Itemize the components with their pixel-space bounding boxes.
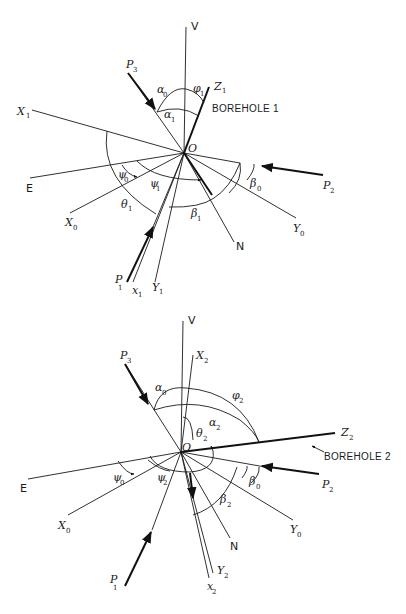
p3-arrow [125, 364, 148, 404]
label-x0: X 0 [64, 216, 77, 232]
svg-text:2: 2 [330, 187, 334, 195]
label-x2-lower: x 2 [207, 580, 216, 596]
label-p2: P 2 [321, 478, 333, 494]
svg-text:0: 0 [256, 483, 260, 491]
label-v: V [191, 20, 199, 33]
label-y0: Y 0 [293, 222, 304, 238]
svg-text:θ: θ [121, 198, 128, 211]
axis-n-line [184, 153, 234, 242]
svg-text:2: 2 [163, 479, 167, 487]
label-beta1: β 1 [190, 207, 201, 223]
svg-text:0: 0 [300, 230, 304, 238]
label-p3: P 3 [125, 58, 137, 74]
svg-text:1: 1 [222, 87, 226, 95]
label-origin: O [188, 142, 197, 155]
svg-text:2: 2 [216, 424, 220, 432]
svg-text:0: 0 [297, 531, 301, 539]
borehole-1-title: BOREHOLE 1 [212, 103, 279, 114]
borehole-2-title: BOREHOLE 2 [324, 451, 391, 462]
beta1-arc-b [214, 163, 240, 198]
svg-text:2: 2 [329, 486, 333, 494]
svg-text:2: 2 [224, 572, 228, 580]
label-p2: P 2 [322, 179, 334, 195]
label-p1: P 1 [114, 273, 123, 292]
figure-canvas: V O BOREHOLE 1 E N X 1 Z 1 X 0 Y 0 Y 1 x… [0, 0, 406, 614]
label-alpha0: α 0 [155, 381, 166, 397]
p1-arrow [125, 532, 151, 586]
svg-text:1: 1 [113, 584, 117, 592]
svg-text:2: 2 [212, 588, 216, 596]
svg-text:0: 0 [73, 224, 77, 232]
label-e: E [26, 182, 33, 195]
svg-text:β: β [249, 177, 256, 190]
label-n: N [236, 240, 244, 253]
label-y0: Y 0 [290, 523, 301, 539]
label-psi1: ψ 1 [150, 177, 160, 193]
svg-text:X: X [16, 105, 26, 118]
svg-text:0: 0 [257, 185, 261, 193]
label-theta2: θ 2 [196, 427, 207, 443]
label-theta1: θ 1 [121, 198, 132, 213]
svg-text:β: β [219, 493, 226, 506]
label-n: N [230, 540, 238, 553]
label-beta0: β 0 [248, 475, 260, 491]
svg-text:0: 0 [162, 389, 166, 397]
label-psi2: ψ 2 [157, 471, 167, 487]
svg-text:2: 2 [204, 357, 208, 365]
label-origin: O [182, 441, 191, 454]
svg-text:0: 0 [66, 527, 70, 535]
svg-text:1: 1 [156, 185, 160, 193]
label-p3: P 3 [119, 349, 131, 365]
svg-text:3: 3 [127, 357, 131, 365]
label-x1-lower: x 1 [132, 284, 142, 299]
axis-y2-line [181, 452, 213, 573]
label-e: E [20, 482, 27, 495]
label-x2-upper: X 2 [195, 349, 208, 365]
beta1-arc-a [169, 198, 214, 207]
svg-text:2: 2 [203, 435, 207, 443]
label-beta0: β 0 [249, 177, 261, 193]
axis-x1-line [32, 110, 184, 153]
svg-text:0: 0 [120, 479, 124, 487]
p2-arrow [262, 166, 323, 175]
svg-text:2: 2 [239, 397, 243, 405]
svg-text:2: 2 [227, 501, 231, 509]
p2-arrow [262, 466, 319, 474]
label-x0: X 0 [57, 519, 70, 535]
label-beta2: β 2 [219, 493, 231, 509]
axis-x2-lower-line [181, 452, 209, 578]
svg-text:1: 1 [159, 288, 163, 296]
svg-text:Z: Z [340, 426, 349, 439]
label-x1-upper: X 1 [16, 105, 30, 120]
axis-v-line [181, 321, 183, 452]
label-p1: P 1 [109, 573, 118, 592]
svg-text:2: 2 [349, 434, 353, 442]
label-phi2: φ 2 [232, 389, 243, 405]
beta0-arc-inner [242, 466, 247, 478]
svg-text:0: 0 [163, 91, 167, 99]
label-v: V [188, 314, 196, 327]
label-z1: Z 1 [213, 80, 226, 95]
axis-x2-upper-line [181, 355, 193, 452]
svg-text:3: 3 [133, 66, 137, 74]
svg-text:θ: θ [196, 427, 203, 440]
axis-y1-line [155, 153, 184, 282]
label-z2: Z 2 [340, 426, 353, 442]
label-alpha1: α 1 [164, 108, 175, 124]
svg-text:1: 1 [118, 284, 122, 292]
label-alpha0: α 0 [157, 83, 167, 99]
beta0-arc-inner [229, 163, 241, 193]
svg-text:1: 1 [200, 90, 204, 98]
svg-text:β: β [248, 475, 255, 488]
svg-text:1: 1 [138, 291, 142, 299]
svg-text:Z: Z [213, 80, 222, 93]
svg-text:1: 1 [128, 205, 132, 213]
svg-text:1: 1 [171, 116, 175, 124]
label-y1: Y 1 [152, 281, 163, 296]
label-y2: Y 2 [217, 564, 228, 580]
p1-arrow [127, 227, 153, 282]
diagram-borehole-2: V O BOREHOLE 2 E N X 2 Z 2 X 0 Y 0 Y 2 x… [20, 314, 391, 596]
svg-text:1: 1 [26, 112, 30, 120]
svg-text:1: 1 [197, 215, 201, 223]
label-psi0: ψ 0 [113, 471, 124, 487]
